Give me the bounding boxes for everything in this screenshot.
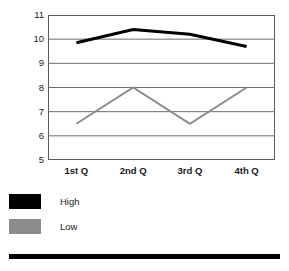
y-tick-label: 5 [4,155,44,165]
chart-legend: HighLow [9,189,149,239]
y-tick-label: 10 [4,34,44,44]
series-line-low [76,88,246,124]
y-tick-label: 6 [4,131,44,141]
x-axis-labels: 1st Q2nd Q3rd Q4th Q [48,166,275,182]
y-tick-label: 8 [4,83,44,93]
y-tick-label: 9 [4,59,44,69]
x-tick-label: 3rd Q [177,166,202,176]
legend-swatch [9,194,41,209]
x-tick-label: 4th Q [234,166,258,176]
bottom-rule [9,254,280,259]
chart-figure: 111098765 1st Q2nd Q3rd Q4th Q HighLow [0,0,289,271]
legend-item[interactable]: Low [9,214,149,239]
y-tick-label: 7 [4,107,44,117]
legend-label: High [60,196,80,207]
legend-item[interactable]: High [9,189,149,214]
plot-series-layer [48,15,275,160]
y-axis-labels: 111098765 [0,15,44,160]
series-line-high [76,30,246,47]
y-tick-label: 11 [4,10,44,20]
series-group [76,30,246,124]
x-tick-label: 1st Q [64,166,88,176]
gridlines-group [48,39,275,136]
x-tick-label: 2nd Q [120,166,147,176]
legend-label: Low [60,221,77,232]
legend-swatch [9,219,41,234]
